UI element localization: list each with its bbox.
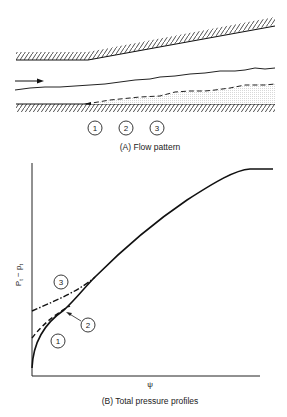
lower-wall [16,104,275,112]
svg-text:3: 3 [59,278,64,287]
curve-label-1: 1 [51,334,65,348]
panel-a-flow-pattern: 1 2 3 (A) Flow pattern [15,17,275,152]
svg-text:1: 1 [56,337,61,346]
separated-region [86,84,275,104]
svg-text:1: 1 [93,124,98,133]
pointer-arrow-icon [66,312,81,321]
panel-b-pressure-profiles: Pt − pt ψ 3 2 1 (B) Total pressure profi… [14,163,273,406]
station-1: 1 [88,121,102,135]
x-axis-label: ψ [147,380,153,389]
curve-3-dashdot [32,277,95,311]
curve-1-solid [32,169,273,368]
curve-label-2: 2 [81,318,95,332]
svg-text:2: 2 [124,124,129,133]
flow-arrow-icon [15,79,44,84]
station-2: 2 [119,121,133,135]
y-axis-label: Pt − pt [14,264,24,287]
curve-label-3: 3 [54,275,68,289]
diagram-canvas: 1 2 3 (A) Flow pattern Pt − pt ψ [0,0,287,417]
station-3: 3 [150,121,164,135]
upper-wall [16,17,275,60]
svg-text:3: 3 [155,124,160,133]
panel-b-caption: (B) Total pressure profiles [102,396,199,406]
svg-text:2: 2 [86,321,91,330]
panel-a-caption: (A) Flow pattern [120,142,181,152]
